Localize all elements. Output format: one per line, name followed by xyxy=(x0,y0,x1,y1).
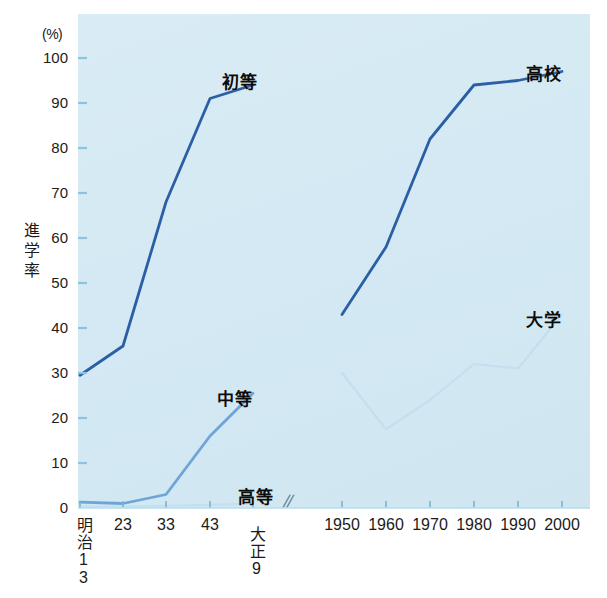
series-label: 中等 xyxy=(217,385,253,410)
series-label: 高校 xyxy=(526,60,562,85)
series-label: 大学 xyxy=(526,306,562,331)
series-label: 初等 xyxy=(222,68,258,93)
series-label: 高等 xyxy=(238,483,274,508)
axis-ticks-layer xyxy=(0,0,607,598)
chart-container: (%) 進学率 1009080706050403020100 明治1323334… xyxy=(0,0,607,598)
